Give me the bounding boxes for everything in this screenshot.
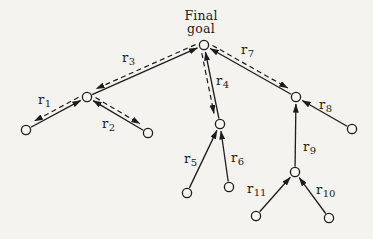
edge-label-r7: r7 (241, 42, 254, 59)
node-goal (199, 40, 208, 49)
edge-label-r6: r6 (231, 150, 244, 167)
edge-label-r2: r2 (102, 116, 115, 133)
edge-label-r11: r11 (247, 181, 266, 198)
node-r8-leaf (347, 124, 356, 133)
node-r5-leaf (182, 188, 191, 197)
edge-r3-dashed-arrow (96, 45, 195, 89)
node-r11-leaf (251, 211, 260, 220)
edge-label-r9: r9 (303, 139, 316, 156)
edge-label-r8: r8 (319, 97, 332, 114)
figure-canvas: Final goal r1r2r3r4r5r6r7r8r9r10r11 (0, 0, 373, 239)
edge-r6-solid-arrow (221, 131, 228, 182)
node-r6-leaf (224, 182, 233, 191)
edge-label-r5: r5 (184, 151, 197, 168)
node-mid (215, 119, 224, 128)
node-r2-leaf (143, 128, 152, 137)
edge-label-r3: r3 (122, 50, 135, 67)
edge-r2-solid-arrow (93, 101, 143, 131)
edge-r9-solid-arrow (295, 104, 296, 166)
tree-diagram: r1r2r3r4r5r6r7r8r9r10r11 (0, 0, 373, 239)
node-lower-hub (290, 167, 299, 176)
edge-r3-solid-arrow (92, 48, 197, 95)
node-r10-leaf (324, 213, 333, 222)
node-left-leaf (21, 125, 30, 134)
edge-label-r10: r10 (316, 182, 335, 199)
node-left-hub (82, 92, 91, 101)
edge-label-r4: r4 (216, 73, 229, 90)
node-right-hub (291, 92, 300, 101)
edge-label-r1: r1 (38, 92, 51, 109)
